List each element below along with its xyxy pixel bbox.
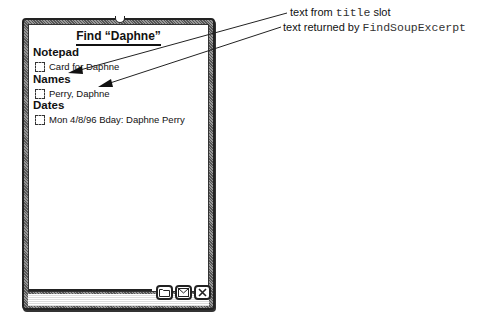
callout-text: text returned by (283, 21, 363, 33)
arrow-head-icon (98, 79, 113, 87)
callout-code: title (336, 6, 371, 19)
callout-title-slot: text from title slot (290, 6, 391, 19)
callout-text: slot (370, 6, 390, 18)
callout-arrows (0, 0, 497, 325)
callout-text: text from (290, 6, 336, 18)
callout-code: FindSoupExcerpt (363, 21, 467, 34)
arrow-head-icon (68, 66, 83, 74)
callout-find-soup-excerpt: text returned by FindSoupExcerpt (283, 21, 466, 34)
